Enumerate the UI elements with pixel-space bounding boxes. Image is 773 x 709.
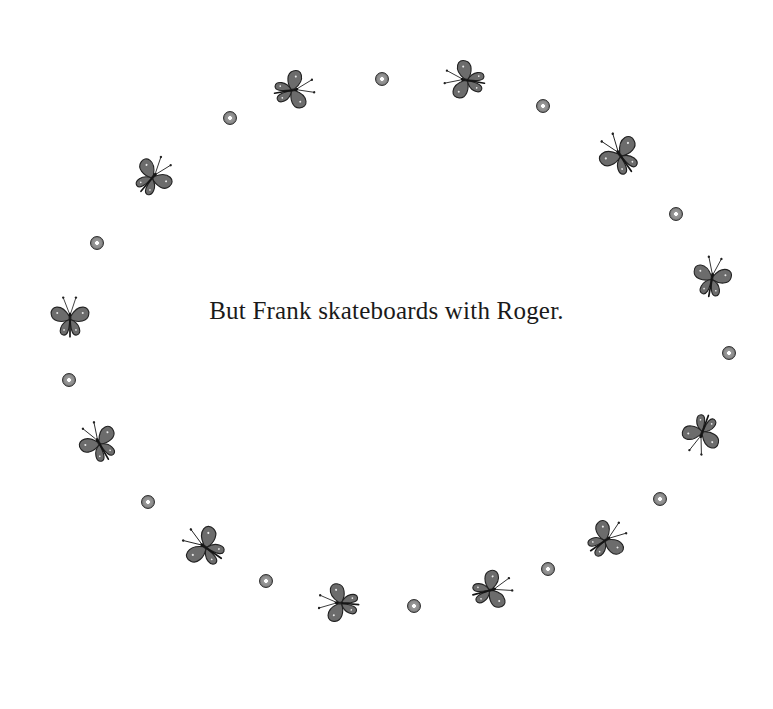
- butterfly-icon: [585, 120, 655, 190]
- dot-icon: [62, 373, 76, 387]
- butterfly-icon: [438, 52, 493, 107]
- dot-icon: [259, 574, 273, 588]
- butterfly-icon: [66, 410, 131, 475]
- dot-icon: [541, 562, 555, 576]
- dot-icon: [90, 236, 104, 250]
- dot-icon: [722, 346, 736, 360]
- picture-book-page: But Frank skateboards with Roger.: [0, 0, 773, 709]
- butterfly-icon: [119, 143, 186, 210]
- butterfly-icon: [573, 507, 639, 573]
- butterfly-icon: [671, 402, 732, 463]
- butterfly-icon: [170, 512, 240, 582]
- dot-icon: [223, 111, 237, 125]
- butterfly-icon: [265, 62, 320, 117]
- dot-icon: [375, 72, 389, 86]
- dot-icon: [536, 99, 550, 113]
- butterfly-icon: [314, 577, 366, 629]
- dot-icon: [141, 495, 155, 509]
- story-caption: But Frank skateboards with Roger.: [0, 297, 773, 325]
- dot-icon: [653, 492, 667, 506]
- dot-icon: [669, 207, 683, 221]
- butterfly-icon: [462, 561, 520, 619]
- dot-icon: [407, 599, 421, 613]
